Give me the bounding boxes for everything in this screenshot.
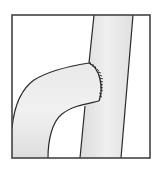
anastomosis-diagram <box>0 0 160 171</box>
